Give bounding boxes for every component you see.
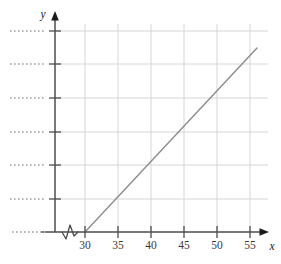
x-tick-label-40: 40 [145,239,157,251]
x-tick-label-55: 55 [244,239,256,251]
x-tick-label-35: 35 [112,239,124,251]
x-tick-label-50: 50 [211,239,223,251]
chart-container: 30 35 40 45 50 55 y x [0,0,281,264]
y-axis-label: y [39,8,46,21]
x-axis-label: x [268,240,275,252]
x-tick-label-45: 45 [178,239,190,251]
x-tick-label-30: 30 [79,239,91,251]
line-chart: 30 35 40 45 50 55 y x [0,0,281,264]
